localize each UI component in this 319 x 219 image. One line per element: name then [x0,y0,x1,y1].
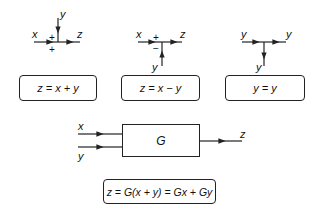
difference-junction-lines [138,42,182,66]
block-equation: z = G(x + y) = Gx + Gy [107,186,213,198]
sum-input-x-label: x [32,29,38,40]
block-label: G [156,134,165,148]
diff-input-y-label: y [152,62,158,73]
sum-equation: z = x + y [37,82,79,94]
block-equation-box: z = G(x + y) = Gx + Gy [103,179,216,204]
block-input-y-label: y [78,151,84,162]
block-output-z-label: z [240,129,246,140]
takeoff-point-lines [242,42,286,66]
block-input-x-label: x [78,121,84,132]
sum-equation-box: z = x + y [19,75,97,101]
diff-equation: z = x − y [140,82,182,94]
sum-sign-bottom: + [49,45,55,55]
takeoff-input-y-label: y [241,29,247,40]
takeoff-output-right-label: y [286,29,292,40]
takeoff-equation-box: y = y [225,75,305,101]
diff-input-x-label: x [136,29,142,40]
diff-equation-box: z = x − y [121,75,200,101]
diff-output-z-label: z [180,29,186,40]
sum-input-y-label: y [60,9,66,20]
sum-output-z-label: z [77,29,83,40]
transfer-block-g: G [122,124,200,157]
summing-junction-lines [34,18,80,42]
takeoff-output-down-label: y [256,62,262,73]
sum-sign-left: + [49,33,55,43]
diff-sign-bottom: − [153,44,159,54]
diff-sign-top: + [153,33,159,43]
takeoff-equation: y = y [253,82,277,94]
